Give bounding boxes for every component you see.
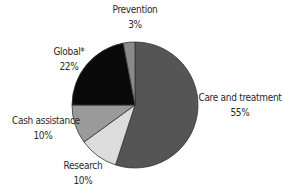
- label-research-name: Research: [58, 158, 108, 173]
- label-cash-name: Cash assistance: [12, 113, 74, 128]
- label-prevention-pct: 3%: [100, 17, 170, 32]
- label-global-pct: 22%: [47, 59, 91, 74]
- label-care-pct: 55%: [196, 105, 283, 120]
- label-research: Research 10%: [58, 158, 108, 188]
- label-cash-pct: 10%: [12, 128, 74, 143]
- label-prevention-name: Prevention: [100, 2, 170, 17]
- label-research-pct: 10%: [58, 173, 108, 188]
- label-global: Global* 22%: [47, 44, 91, 74]
- label-care-name: Care and treatment: [196, 90, 283, 105]
- label-care-and-treatment: Care and treatment 55%: [196, 90, 283, 120]
- label-prevention: Prevention 3%: [100, 2, 170, 32]
- label-global-name: Global*: [47, 44, 91, 59]
- label-cash-assistance: Cash assistance 10%: [12, 113, 74, 143]
